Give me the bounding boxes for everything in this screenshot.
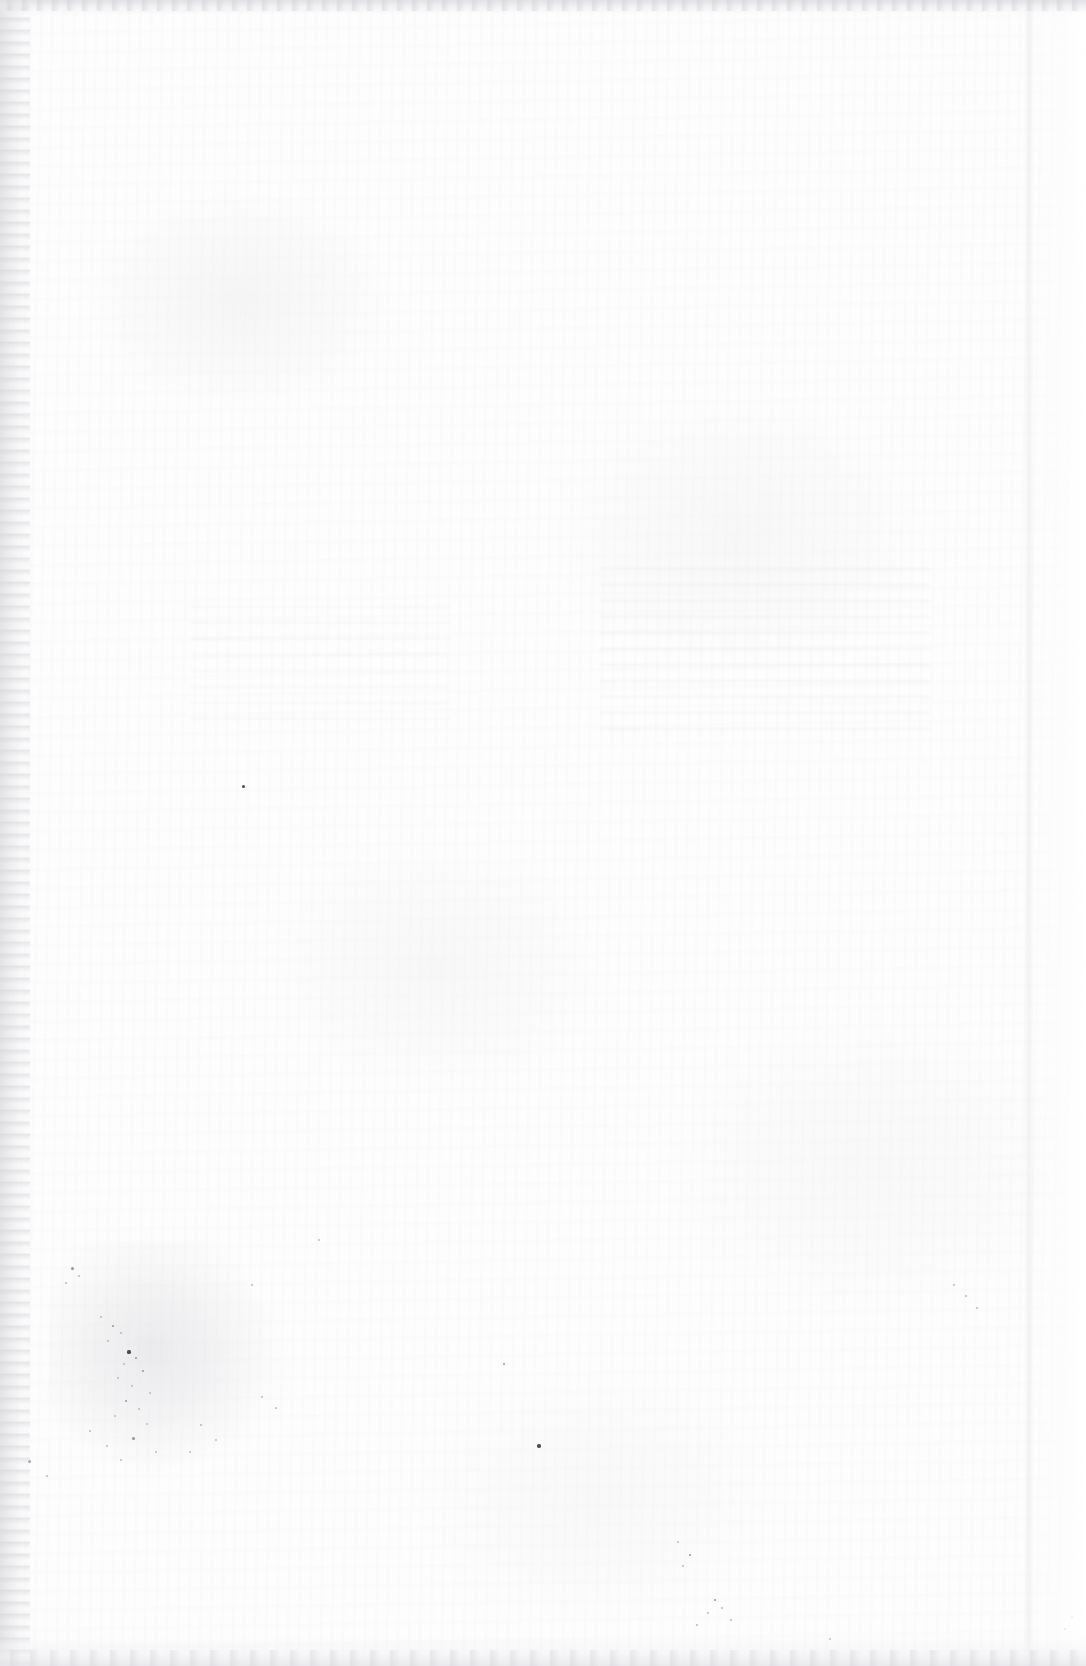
top-edge-ragged [0,0,1086,11]
left-gutter-grain [0,0,30,1666]
scanned-page [0,0,1086,1666]
right-edge-seam [1024,0,1034,1666]
showthrough-ghosting-upper [600,560,930,730]
foxing-haze [50,1240,270,1470]
showthrough-ghosting-mid [190,600,450,720]
bottom-edge-ragged [0,1650,1086,1666]
